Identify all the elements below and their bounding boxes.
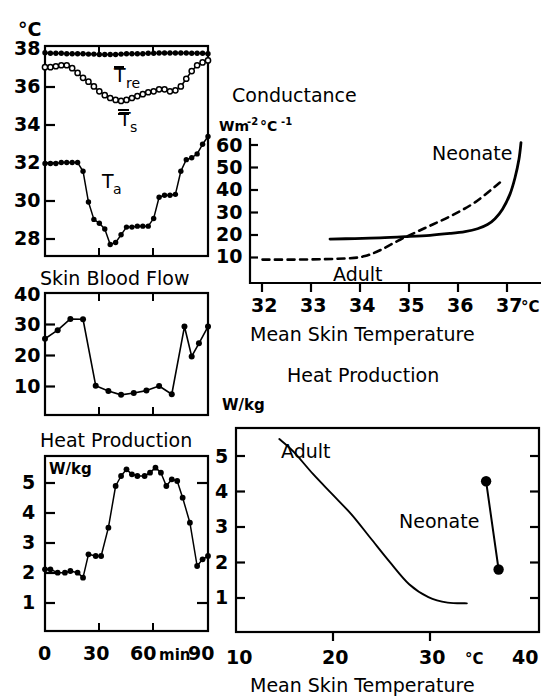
conductance-unit-degc: °C: [260, 118, 277, 134]
hpx-ytick-5: 5: [215, 445, 228, 467]
figure-canvas: °C 38 36 34 32 30 28: [0, 0, 558, 700]
cond-xtick-35: 35: [398, 294, 424, 316]
conductance-xlabel: Mean Skin Temperature: [250, 323, 475, 345]
conductance-x-ticks: [262, 283, 507, 292]
series-T_re: [42, 50, 210, 57]
temp-ytick-34: 34: [14, 113, 40, 135]
cond-ytick-20: 20: [216, 223, 242, 245]
cond-ytick-30: 30: [216, 201, 242, 223]
temp-label-ts: T s: [118, 108, 137, 135]
cond-x-unit-degc: °C: [521, 298, 540, 316]
temp-label-tre: T re: [113, 64, 140, 91]
conductance-title: Conductance: [232, 84, 357, 106]
cond-xtick-33: 33: [300, 294, 326, 316]
ta-label-sub: a: [113, 181, 122, 197]
temp-ytick-32: 32: [14, 151, 40, 173]
cond-ytick-50: 50: [216, 156, 242, 178]
hpx-xtick-40: 40: [512, 646, 538, 668]
hpt-x-unit-min: min: [159, 646, 190, 664]
panel-heat-production-time: Heat Production W/kg 5 4 3 2 1 0 30 60: [22, 429, 214, 664]
sbf-ytick-20: 20: [14, 344, 40, 366]
temp-ytick-36: 36: [14, 75, 40, 97]
curve-neonate: [481, 476, 504, 575]
hpx-ytick-3: 3: [215, 515, 228, 537]
series-heat-production: [42, 465, 211, 581]
hpx-title: Heat Production: [287, 364, 439, 386]
cond-xtick-36: 36: [447, 294, 473, 316]
hpt-x-axis-labels: 0 30 60 min 90: [38, 642, 214, 664]
conductance-y-axis: 60 50 40 30 20 10: [216, 134, 258, 267]
hpt-xtick-30: 30: [83, 642, 109, 664]
hpx-neonate-label: Neonate: [399, 510, 479, 532]
temp-ytick-28: 28: [14, 227, 40, 249]
temp-ytick-30: 30: [14, 189, 40, 211]
hpt-xtick-90: 90: [188, 642, 214, 664]
curve-adult: [263, 182, 501, 259]
hpx-xtick-30: 30: [419, 646, 445, 668]
conductance-unit-wm: Wm: [219, 118, 249, 134]
panel-temperatures: °C 38 36 34 32 30 28: [14, 18, 211, 256]
hpx-ytick-2: 2: [215, 551, 228, 573]
temp-ytick-38: 38: [14, 37, 40, 59]
hpt-title: Heat Production: [40, 429, 192, 451]
sbf-plot-frame: [45, 293, 208, 415]
cond-xtick-32: 32: [251, 294, 277, 316]
hpt-x-ticks: [99, 623, 153, 631]
hpt-ytick-5: 5: [22, 471, 35, 493]
conductance-adult-label: Adult: [333, 263, 383, 285]
hpx-y-unit-label: W/kg: [222, 396, 265, 414]
cond-ytick-10: 10: [216, 245, 242, 267]
series-T_a: [42, 134, 210, 247]
conductance-y-unit: Wm -2 °C -1: [219, 116, 292, 134]
hpt-ytick-4: 4: [22, 501, 35, 523]
hpx-x-unit-degc: °C: [465, 650, 484, 668]
cond-ytick-40: 40: [216, 178, 242, 200]
temp-label-ta: T a: [101, 170, 122, 197]
hpt-y-unit-label: W/kg: [49, 460, 92, 478]
series-skin-blood-flow: [42, 316, 211, 398]
hpx-x-ticks: [333, 632, 430, 641]
sbf-y-axis: 40 30 20 10: [14, 283, 55, 397]
sbf-x-ticks: [99, 293, 153, 415]
sbf-title: Skin Blood Flow: [40, 267, 189, 289]
tre-label-sub: re: [126, 75, 140, 91]
hpx-xlabel: Mean Skin Temperature: [250, 674, 475, 696]
hpx-xtick-10: 10: [226, 646, 252, 668]
conductance-x-axis-labels: 32 33 34 35 36 37 °C: [251, 294, 540, 316]
sbf-series-group: [42, 316, 211, 398]
panel-heat-production-temp: Heat Production W/kg 5 4 3 2 1 Adult N: [215, 364, 539, 696]
hpt-ytick-1: 1: [22, 591, 35, 613]
sbf-ytick-10: 10: [14, 375, 40, 397]
hpt-ytick-3: 3: [22, 531, 35, 553]
conductance-neonate-label: Neonate: [432, 142, 512, 164]
hpx-y-axis: 5 4 3 2 1: [215, 445, 539, 608]
hpt-plot-frame: [45, 456, 208, 631]
ts-label-sub: s: [130, 119, 137, 135]
conductance-unit-sup2: -1: [281, 116, 292, 127]
hpx-adult-label: Adult: [281, 440, 331, 462]
figure-thermoregulation: °C 38 36 34 32 30 28: [0, 0, 558, 700]
hpt-xtick-0: 0: [38, 642, 51, 664]
hpx-ytick-4: 4: [215, 480, 228, 502]
cond-ytick-60: 60: [216, 134, 242, 156]
temp-x-ticks-bottom: [99, 248, 153, 256]
cond-xtick-37: 37: [496, 294, 522, 316]
hpx-ytick-1: 1: [215, 586, 228, 608]
panel-skin-blood-flow: Skin Blood Flow 40 30 20 10: [14, 267, 211, 415]
hpt-ytick-2: 2: [22, 561, 35, 583]
sbf-ytick-40: 40: [14, 283, 40, 305]
hpt-xtick-60: 60: [130, 642, 156, 664]
hpt-series-group: [42, 465, 211, 581]
conductance-unit-sup1: -2: [247, 116, 258, 127]
sbf-ytick-30: 30: [14, 313, 40, 335]
hpx-xtick-20: 20: [322, 646, 348, 668]
panel-conductance: Conductance Wm -2 °C -1 60 50 40 30 20 1…: [216, 84, 541, 345]
cond-xtick-34: 34: [349, 294, 375, 316]
hpx-x-axis-labels: 10 20 30 °C 40: [226, 646, 538, 668]
